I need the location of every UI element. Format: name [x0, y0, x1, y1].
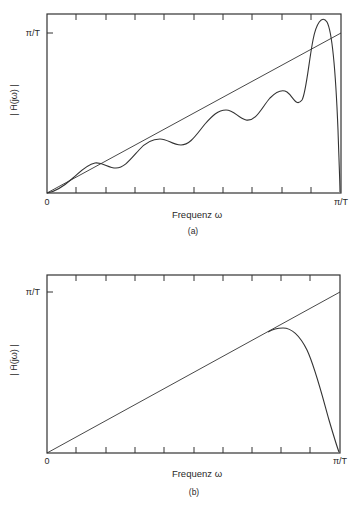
plot-a-xlabel: Frequenz ω	[172, 209, 223, 220]
plot-a-y-tick-label: π/T	[26, 28, 41, 38]
plot-a-x-tick-start: 0	[44, 197, 49, 207]
plot-a-top-ticks	[76, 14, 311, 20]
plot-b-y-tick-label: π/T	[26, 287, 41, 297]
plot-b-response-curve	[268, 328, 339, 452]
plot-a-ideal-line	[47, 33, 341, 193]
plot-b-x-tick-start: 0	[44, 456, 49, 466]
plot-b-top-ticks	[76, 275, 310, 281]
plot-b-x-tick-end: π/T	[333, 456, 348, 466]
plot-a-frame	[47, 14, 341, 193]
plot-a-x-tick-end: π/T	[334, 197, 349, 207]
plot-a: π/T 0 π/T Frequenz ω (a) | H̄(jω) |	[9, 14, 349, 236]
plot-a-response-curve	[47, 19, 340, 193]
plot-b-bottom-ticks	[76, 447, 310, 453]
plot-b-ylabel: | H̄(jω) |	[9, 344, 19, 375]
plot-b-xlabel: Frequenz ω	[172, 468, 223, 479]
plot-b-frame	[47, 275, 340, 453]
plot-b: π/T 0 π/T Frequenz ω (b) | H̄(jω) |	[9, 275, 348, 497]
plot-a-caption: (a)	[188, 226, 199, 236]
plot-b-caption: (b)	[189, 487, 200, 497]
figure: π/T 0 π/T Frequenz ω (a) | H̄(jω) | π/T …	[0, 0, 359, 513]
plot-b-ideal-line	[47, 292, 340, 453]
plot-a-bottom-ticks	[76, 187, 311, 193]
plot-a-ylabel: | H̄(jω) |	[9, 84, 19, 115]
